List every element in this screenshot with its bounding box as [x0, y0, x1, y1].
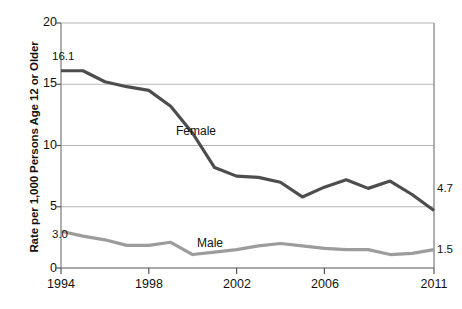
x-tick-2011: 2011 — [413, 277, 455, 291]
series-label-male: Male — [197, 236, 223, 250]
series-label-female: Female — [176, 124, 216, 138]
x-tick-2002: 2002 — [216, 277, 258, 291]
series-line-male — [61, 231, 434, 254]
value-label-female-start: 16.1 — [52, 50, 74, 62]
value-label-male-start: 3.0 — [52, 228, 68, 240]
x-tick-2006: 2006 — [304, 277, 346, 291]
x-axis-ticks — [61, 268, 434, 274]
x-tick-1998: 1998 — [128, 277, 170, 291]
line-chart: Rate per 1,000 Persons Age 12 or Older 2… — [0, 0, 462, 309]
gridlines — [61, 23, 434, 207]
x-tick-1994: 1994 — [40, 277, 82, 291]
plot-area — [0, 0, 462, 309]
value-label-female-end: 4.7 — [437, 182, 453, 194]
value-label-male-end: 1.5 — [437, 243, 453, 255]
series-line-female — [61, 71, 434, 211]
